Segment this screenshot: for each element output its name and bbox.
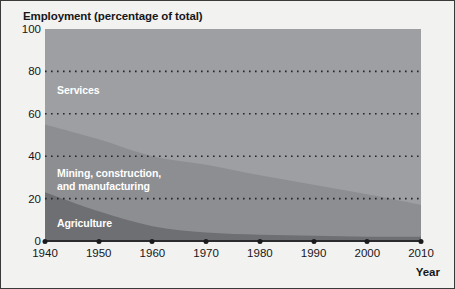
- series-layers: [45, 29, 421, 241]
- series-label-industry: Mining, construction, and manufacturing: [57, 167, 161, 193]
- x-tick-label-1960: 1960: [140, 247, 166, 259]
- x-axis: 19401950196019701980199020002010: [45, 241, 421, 265]
- x-tick-label-1970: 1970: [193, 247, 219, 259]
- series-label-agriculture: Agriculture: [57, 217, 112, 230]
- chart-title: Employment (percentage of total): [23, 10, 203, 22]
- x-tick-dot-1960: [150, 239, 155, 244]
- y-tick-label-60: 60: [11, 108, 41, 120]
- x-tick-dot-1950: [96, 239, 101, 244]
- y-tick-label-80: 80: [11, 65, 41, 77]
- x-tick-dot-1970: [204, 239, 209, 244]
- x-tick-dot-2000: [365, 239, 370, 244]
- x-tick-label-1990: 1990: [301, 247, 327, 259]
- y-tick-label-40: 40: [11, 150, 41, 162]
- chart-figure: Employment (percentage of total) 0204060…: [0, 0, 455, 289]
- series-label-services: Services: [57, 84, 99, 97]
- x-axis-title: Year: [416, 266, 440, 278]
- x-tick-dot-1940: [43, 239, 48, 244]
- x-tick-label-1980: 1980: [247, 247, 273, 259]
- y-axis: 020406080100: [7, 29, 41, 241]
- x-tick-dot-1990: [311, 239, 316, 244]
- x-tick-label-2000: 2000: [355, 247, 381, 259]
- x-tick-label-2010: 2010: [408, 247, 434, 259]
- x-tick-label-1940: 1940: [32, 247, 58, 259]
- x-tick-dot-2010: [419, 239, 424, 244]
- y-tick-label-0: 0: [11, 235, 41, 247]
- y-tick-label-20: 20: [11, 193, 41, 205]
- x-tick-dot-1980: [257, 239, 262, 244]
- stacked-area-plot: [45, 29, 421, 241]
- plot-area: [45, 29, 421, 241]
- y-tick-label-100: 100: [11, 23, 41, 35]
- x-tick-label-1950: 1950: [86, 247, 112, 259]
